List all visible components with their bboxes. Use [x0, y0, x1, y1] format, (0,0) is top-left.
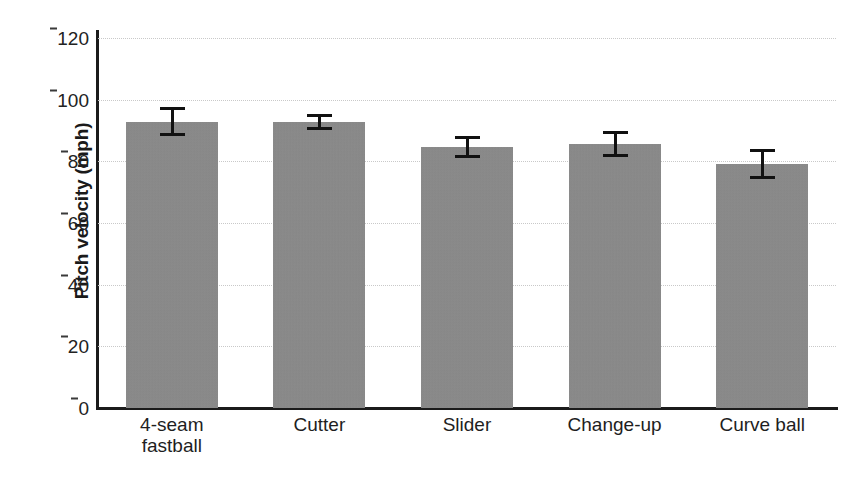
- bar-chart-figure: Pitch velocity (mph) 020406080100120 4-s…: [0, 0, 850, 480]
- y-tick-mark: [50, 89, 57, 91]
- y-tick-mark: [61, 336, 68, 338]
- error-bar-cap-top: [750, 149, 775, 152]
- x-tick-label: Cutter: [246, 414, 394, 435]
- y-tick-mark: [71, 398, 78, 400]
- y-tick-label: 120: [57, 29, 89, 48]
- x-tick-label: Slider: [393, 414, 541, 435]
- y-tick-mark: [61, 213, 68, 215]
- bar: [126, 122, 218, 408]
- x-tick-label: Curve ball: [688, 414, 836, 435]
- bar: [716, 164, 808, 408]
- error-bar-cap-top: [603, 131, 628, 134]
- error-bar-cap-bottom: [455, 155, 480, 158]
- error-bar-stem: [761, 149, 764, 179]
- x-tick-label: 4-seam fastball: [98, 414, 246, 456]
- error-bar-cap-bottom: [750, 176, 775, 179]
- error-bar-cap-bottom: [160, 133, 185, 136]
- error-bar-cap-top: [160, 107, 185, 110]
- bar: [569, 144, 661, 408]
- gridline: [98, 38, 836, 39]
- error-bar-stem: [171, 107, 174, 137]
- y-tick-label: 40: [68, 275, 89, 294]
- gridline: [98, 100, 836, 101]
- bar: [421, 147, 513, 408]
- y-tick-mark: [50, 28, 57, 30]
- y-tick-label: 20: [68, 337, 89, 356]
- x-tick-label: Change-up: [541, 414, 689, 435]
- y-tick-label: 80: [68, 152, 89, 171]
- error-bar-cap-bottom: [307, 127, 332, 130]
- bar: [273, 122, 365, 408]
- error-bar-cap-top: [455, 136, 480, 139]
- y-tick-label: 100: [57, 90, 89, 109]
- error-bar-cap-top: [307, 114, 332, 117]
- y-tick-mark: [61, 274, 68, 276]
- error-bar-cap-bottom: [603, 154, 628, 157]
- plot-area: 020406080100120: [98, 38, 836, 408]
- y-tick-label: 60: [68, 214, 89, 233]
- y-tick-mark: [61, 151, 68, 153]
- y-tick-label: 0: [78, 399, 89, 418]
